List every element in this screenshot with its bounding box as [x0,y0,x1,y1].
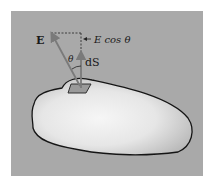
gauss-flux-diagram: E E cos θ θ dS [0,0,214,189]
field-vector-label: E [36,34,44,47]
area-element-label: dS [85,56,100,69]
projection-label: E cos θ [93,34,130,45]
angle-label: θ [68,54,74,64]
